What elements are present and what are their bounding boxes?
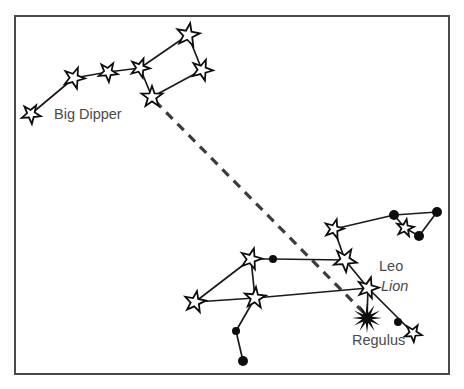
constellation-line	[273, 259, 345, 260]
star-dot-lambda-leo	[414, 231, 424, 241]
star-dot-epsilon-leo	[432, 207, 442, 217]
label-big-dipper: Big Dipper	[54, 106, 122, 122]
label-lion: Lion	[381, 278, 408, 294]
star-dot-tau-leo	[269, 255, 277, 263]
star-dot-iota-leo	[232, 327, 240, 335]
star-chart-canvas: Big DipperLeoLionRegulus	[0, 0, 464, 389]
label-leo: Leo	[379, 258, 403, 274]
label-regulus: Regulus	[352, 332, 405, 348]
chart-frame-border	[15, 16, 449, 374]
star-dot-sigma-leo	[238, 356, 248, 366]
star-dot-rho-leo	[394, 318, 402, 326]
star-dot-mu-leo	[389, 210, 399, 220]
star-chart-figure: Big DipperLeoLionRegulus	[0, 0, 464, 389]
